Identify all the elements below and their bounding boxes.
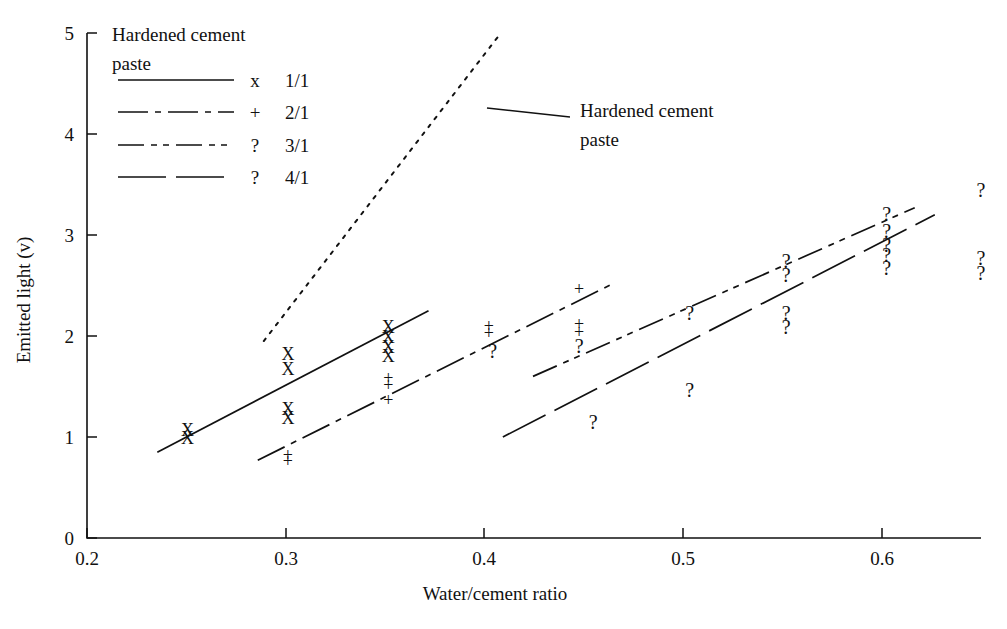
axes-group: 0 1 2 3 4 5 0.2 0.3 0.4 0.5 0.6 Water/ce…	[13, 23, 981, 604]
y-axis-ticks	[87, 33, 97, 538]
x-axis-title: Water/cement ratio	[423, 583, 568, 604]
y-tick-label: 1	[65, 427, 75, 448]
hcp-annotation: Hardened cement paste	[487, 100, 714, 150]
data-point-marker: ?	[782, 316, 791, 338]
data-markers-group: XXXXXXXXXX++++++++++?????????????????	[181, 179, 986, 471]
x-tick-labels: 0.2 0.3 0.4 0.5 0.6	[75, 548, 894, 569]
y-axis-title: Emitted light (v)	[13, 237, 35, 364]
y-tick-label: 0	[65, 528, 75, 549]
data-point-marker: X	[281, 359, 294, 379]
trend-line-3-1	[533, 208, 915, 377]
trend-lines-group	[157, 33, 934, 460]
legend-marker-question-icon: ?	[251, 135, 259, 156]
legend-label-4-1: 4/1	[285, 167, 309, 188]
data-point-marker: ?	[977, 179, 986, 201]
legend-label-3-1: 3/1	[285, 135, 309, 156]
data-point-marker: ?	[882, 257, 891, 279]
data-point-marker: X	[281, 408, 294, 428]
trend-line-4-1	[503, 215, 935, 437]
data-point-marker: ?	[589, 411, 598, 433]
annotation-line-2: paste	[580, 129, 619, 150]
legend-marker-x-icon: x	[250, 70, 260, 91]
data-point-marker: X	[382, 346, 395, 366]
legend-label-2-1: 2/1	[285, 102, 309, 123]
chart-canvas: 0 1 2 3 4 5 0.2 0.3 0.4 0.5 0.6 Water/ce…	[0, 0, 1007, 629]
legend-label-1-1: 1/1	[285, 70, 309, 91]
annotation-leader-line	[487, 108, 570, 117]
data-point-marker: ?	[977, 262, 986, 284]
legend: Hardened cement paste x 1/1 + 2/1 ? 3/1	[112, 24, 309, 188]
legend-item-4-1[interactable]: ? 4/1	[118, 167, 309, 188]
legend-item-3-1[interactable]: ? 3/1	[118, 135, 309, 156]
x-tick-label: 0.6	[870, 548, 894, 569]
data-point-marker: ?	[685, 302, 694, 324]
data-point-marker: ?	[685, 379, 694, 401]
x-axis-ticks	[87, 528, 882, 538]
y-tick-labels: 0 1 2 3 4 5	[65, 23, 75, 549]
chart-figure: 0 1 2 3 4 5 0.2 0.3 0.4 0.5 0.6 Water/ce…	[0, 0, 1007, 629]
data-point-marker: +	[574, 279, 584, 299]
annotation-line-1: Hardened cement	[580, 100, 714, 121]
legend-item-2-1[interactable]: + 2/1	[118, 102, 309, 123]
x-tick-label: 0.2	[75, 548, 99, 569]
y-tick-label: 4	[65, 124, 75, 145]
axis-lines	[87, 33, 981, 538]
legend-marker-plus-icon: +	[250, 102, 261, 123]
y-tick-label: 5	[65, 23, 75, 44]
x-tick-label: 0.5	[671, 548, 695, 569]
x-tick-label: 0.4	[472, 548, 496, 569]
legend-marker-question-icon: ?	[251, 167, 259, 188]
data-point-marker: ?	[575, 335, 584, 357]
legend-title-line-1: Hardened cement	[112, 24, 246, 45]
x-tick-label: 0.3	[274, 548, 298, 569]
legend-title-line-2: paste	[112, 53, 151, 74]
data-point-marker: X	[181, 428, 194, 448]
data-point-marker: ?	[782, 264, 791, 286]
data-point-marker: +	[383, 390, 393, 410]
data-point-marker: +	[283, 451, 293, 471]
data-point-marker: ?	[488, 340, 497, 362]
y-tick-label: 3	[65, 225, 75, 246]
y-tick-label: 2	[65, 326, 75, 347]
